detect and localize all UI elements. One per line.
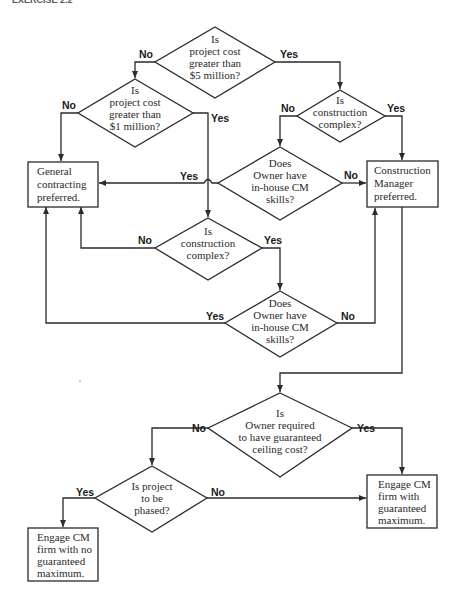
svg-text:Is: Is: [336, 94, 344, 106]
svg-text:guaranteed: guaranteed: [37, 555, 86, 567]
svg-text:maximum.: maximum.: [378, 514, 426, 526]
label-d1-no: No: [139, 48, 153, 60]
svg-text:Does: Does: [269, 297, 292, 309]
svg-text:Engage CM: Engage CM: [37, 531, 90, 543]
svg-text:project cost: project cost: [109, 96, 160, 108]
svg-text:guaranteed: guaranteed: [378, 502, 427, 514]
edge-d3-yes: [385, 116, 402, 160]
label-d5-yes: Yes: [264, 234, 282, 246]
edge-d5-yes: [262, 248, 280, 290]
svg-text:firm with: firm with: [378, 490, 420, 502]
svg-text:Engage CM: Engage CM: [378, 478, 431, 490]
edge-d6-no: [337, 208, 375, 323]
label-d5-no: No: [138, 234, 152, 246]
svg-text:Manager: Manager: [374, 177, 413, 189]
svg-text:Is: Is: [131, 84, 139, 96]
edge-d8-yes: [63, 498, 95, 527]
edge-d1-no: [135, 62, 155, 78]
svg-text:firm with no: firm with no: [37, 543, 92, 555]
svg-text:Is: Is: [276, 407, 284, 419]
label-d6-yes: Yes: [206, 310, 224, 322]
decision-cost-over-1m: Is project cost greater than $1 million?: [78, 79, 193, 147]
label-d8-no: No: [211, 486, 225, 498]
label-d1-yes: Yes: [280, 48, 298, 60]
decision-inhouse-cm-1: Does Owner have in-house CM skills?: [218, 147, 342, 220]
svg-text:Owner have: Owner have: [253, 169, 307, 181]
flowchart: EXERCISE 2.2: [0, 0, 460, 596]
outcome-general-contracting: General contracting preferred.: [28, 162, 98, 207]
svg-text:Does: Does: [269, 157, 292, 169]
label-d8-yes: Yes: [76, 486, 94, 498]
svg-text:preferred.: preferred.: [37, 191, 80, 203]
label-d2-yes: Yes: [211, 112, 229, 124]
label-d4-yes: Yes: [180, 170, 198, 182]
svg-text:contracting: contracting: [37, 178, 87, 190]
svg-text:complex?: complex?: [319, 118, 362, 130]
speck: [79, 380, 81, 382]
svg-text:Owner required: Owner required: [245, 419, 315, 431]
svg-text:maximum.: maximum.: [37, 567, 85, 579]
svg-text:to have guaranteed: to have guaranteed: [238, 431, 322, 443]
label-d4-no: No: [344, 169, 358, 181]
edge-d7-yes: [352, 428, 402, 474]
svg-text:Is: Is: [211, 33, 219, 45]
svg-text:Is project: Is project: [131, 480, 172, 492]
svg-text:Is: Is: [204, 225, 212, 237]
svg-text:preferred.: preferred.: [374, 190, 417, 202]
edge-d4-yes: [99, 180, 218, 184]
outcome-cm-no-guaranteed-max: Engage CM firm with no guaranteed maximu…: [28, 528, 98, 581]
svg-text:phased?: phased?: [134, 504, 170, 516]
label-d7-no: No: [192, 422, 206, 434]
svg-text:in-house CM: in-house CM: [251, 181, 309, 193]
svg-text:$1 million?: $1 million?: [110, 120, 161, 132]
svg-text:General: General: [37, 165, 72, 177]
svg-text:skills?: skills?: [266, 193, 294, 205]
decision-guaranteed-ceiling: Is Owner required to have guaranteed cei…: [208, 393, 352, 477]
decision-cost-over-5m: Is project cost greater than $5 million?: [155, 27, 275, 98]
decision-project-phased: Is project to be phased?: [95, 466, 207, 532]
edge-d2-no: [61, 113, 78, 161]
label-d6-no: No: [341, 310, 355, 322]
decision-construction-complex-2: Is construction complex?: [155, 218, 262, 280]
svg-text:project cost: project cost: [189, 45, 240, 57]
svg-text:Construction: Construction: [374, 164, 431, 176]
decision-inhouse-cm-2: Does Owner have in-house CM skills?: [225, 291, 337, 357]
edge-d2-yes: [193, 113, 208, 217]
outcome-construction-manager: Construction Manager preferred.: [367, 161, 438, 207]
svg-text:greater than: greater than: [109, 108, 162, 120]
label-d2-no: No: [62, 99, 76, 111]
label-d3-yes: Yes: [387, 102, 405, 114]
decision-construction-complex-1: Is construction complex?: [297, 90, 385, 142]
svg-text:construction: construction: [313, 106, 368, 118]
outcome-cm-guaranteed-max: Engage CM firm with guaranteed maximum.: [367, 475, 437, 528]
svg-text:in-house CM: in-house CM: [251, 321, 309, 333]
svg-text:ceiling cost?: ceiling cost?: [252, 443, 307, 455]
edge-d3-no: [280, 116, 297, 146]
svg-text:skills?: skills?: [266, 333, 294, 345]
svg-text:to be: to be: [141, 492, 163, 504]
svg-text:$5 million?: $5 million?: [190, 69, 241, 81]
svg-text:greater than: greater than: [189, 57, 242, 69]
edge-cm-to-d7: [280, 207, 402, 392]
label-d7-yes: Yes: [357, 422, 375, 434]
edge-d1-yes: [275, 62, 340, 89]
svg-text:Owner have: Owner have: [253, 309, 307, 321]
svg-text:construction: construction: [181, 237, 236, 249]
svg-text:complex?: complex?: [187, 249, 230, 261]
exercise-header: EXERCISE 2.2: [12, 0, 73, 5]
label-d3-no: No: [281, 102, 295, 114]
